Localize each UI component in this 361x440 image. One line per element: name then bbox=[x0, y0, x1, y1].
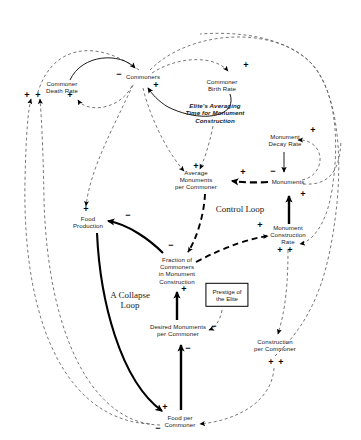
polarity-sign: + bbox=[240, 168, 245, 177]
link-construction-rate-to-construction-per-commoner bbox=[278, 250, 288, 334]
link-construction-per-commoner-to-food-per-commoner bbox=[200, 368, 274, 424]
node-monument-construction-rate[interactable]: Monument Construction Rate bbox=[270, 224, 305, 246]
polarity-sign: + bbox=[257, 221, 262, 230]
solid-links bbox=[70, 58, 289, 411]
polarity-sign: − bbox=[270, 167, 275, 176]
polarity-sign: − bbox=[168, 241, 173, 250]
loop-label-control-loop: Control Loop bbox=[216, 204, 265, 214]
node-monuments[interactable]: Monuments bbox=[272, 178, 305, 185]
polarity-sign: + bbox=[268, 358, 273, 367]
node-commoner-birth-rate[interactable]: Commoner Birth Rate bbox=[207, 78, 238, 92]
node-average-monuments-per-commoner[interactable]: Average Monuments per Commoner bbox=[175, 169, 217, 191]
polarity-sign: + bbox=[181, 285, 186, 294]
polarity-sign: − bbox=[211, 322, 216, 331]
polarity-sign: − bbox=[116, 70, 121, 79]
polarity-sign: + bbox=[24, 91, 29, 100]
causal-loop-diagram: Commoner Death Rate Commoners Commoner B… bbox=[0, 0, 361, 440]
polarity-sign: + bbox=[278, 358, 283, 367]
node-construction-per-commoner[interactable]: Construction per Commoner bbox=[254, 338, 296, 352]
link-monuments-to-average-monuments bbox=[232, 181, 268, 182]
polarity-sign: + bbox=[83, 205, 88, 214]
polarity-sign: + bbox=[67, 91, 72, 100]
polarity-sign: + bbox=[162, 403, 167, 412]
link-commoners-to-death-rate-return bbox=[78, 86, 132, 108]
node-food-production[interactable]: Food Production bbox=[73, 215, 103, 229]
polarity-sign: + bbox=[287, 246, 292, 255]
polarity-sign: + bbox=[277, 246, 282, 255]
node-elites-averaging-time[interactable]: Elite's Averaging Time for Monument Cons… bbox=[186, 102, 245, 124]
polarity-sign: + bbox=[310, 126, 315, 135]
polarity-sign: + bbox=[153, 81, 158, 90]
link-fraction-to-construction-rate bbox=[196, 236, 268, 262]
loop-label-collapse-loop: A Collapse Loop bbox=[110, 290, 150, 310]
link-average-monuments-to-fraction bbox=[188, 194, 205, 252]
node-prestige-of-the-elite[interactable]: Prestige of the Elite bbox=[205, 283, 248, 307]
polarity-sign: + bbox=[193, 162, 198, 171]
polarity-sign: − bbox=[155, 424, 160, 433]
diagram-canvas bbox=[0, 0, 361, 440]
polarity-sign: + bbox=[300, 190, 305, 199]
node-commoner-death-rate[interactable]: Commoner Death Rate bbox=[46, 80, 78, 94]
node-fraction-of-commoners-in-monument-construction[interactable]: Fraction of Commoners in Monument Constr… bbox=[159, 256, 195, 285]
link-fraction-to-food-production bbox=[108, 221, 163, 253]
link-averaging-time-to-average-monuments bbox=[200, 126, 213, 169]
polarity-sign: − bbox=[125, 211, 130, 220]
node-food-per-commoner[interactable]: Food per Commoner bbox=[165, 414, 196, 428]
link-commoners-to-average-monuments bbox=[143, 88, 184, 171]
link-commoners-to-birth-rate bbox=[152, 60, 228, 73]
node-desired-monuments-per-commoner[interactable]: Desired Monuments per Commoner bbox=[150, 323, 206, 337]
link-commoners-to-food-production bbox=[86, 85, 133, 206]
polarity-sign: + bbox=[243, 61, 248, 70]
polarity-sign: − bbox=[185, 344, 190, 353]
polarity-sign: + bbox=[35, 91, 40, 100]
node-monument-decay-rate[interactable]: Monument Decay Rate bbox=[269, 133, 302, 147]
